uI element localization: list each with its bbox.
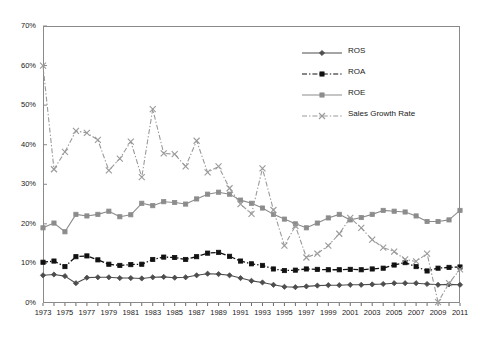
legend-swatch [300, 108, 344, 120]
legend-label: ROA [348, 67, 365, 76]
series-ros [40, 271, 462, 290]
y-axis-tick-label: 10% [2, 258, 36, 267]
chart-container: 0%10%20%30%40%50%60%70% 1973197519771979… [0, 0, 490, 341]
legend-swatch [300, 45, 344, 57]
legend-label: ROE [348, 88, 365, 97]
legend-swatch [300, 87, 344, 99]
y-axis-tick-label: 0% [2, 298, 36, 307]
y-axis-tick-label: 30% [2, 179, 36, 188]
legend-item-ros: ROS [300, 40, 465, 61]
x-axis-tick-label: 2011 [445, 308, 475, 317]
legend-item-sales-growth-rate: Sales Growth Rate [300, 103, 465, 124]
y-axis-tick-label: 70% [2, 21, 36, 30]
legend-label: ROS [348, 46, 365, 55]
y-axis-tick-label: 20% [2, 219, 36, 228]
legend-label: Sales Growth Rate [348, 109, 415, 118]
series-roa [41, 250, 462, 273]
legend-swatch [300, 66, 344, 78]
legend-item-roa: ROA [300, 61, 465, 82]
y-axis-tick-label: 60% [2, 61, 36, 70]
legend-item-roe: ROE [300, 82, 465, 103]
y-axis-tick-label: 50% [2, 100, 36, 109]
y-axis-tick-label: 40% [2, 140, 36, 149]
chart-legend: ROSROAROESales Growth Rate [300, 40, 465, 124]
